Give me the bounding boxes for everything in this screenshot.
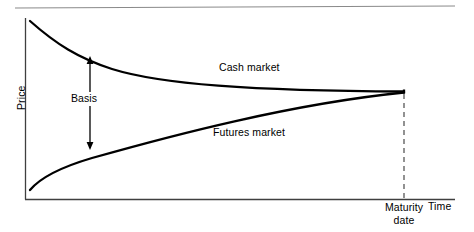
maturity-line1: Maturity [374,201,434,214]
top-rule [15,6,455,8]
y-axis-label: Price [16,78,28,118]
basis-convergence-diagram: Price Cash market Futures market Basis M… [0,0,474,232]
cash-market-curve [30,21,404,92]
diagram-canvas [0,0,474,232]
basis-label: Basis [63,92,105,106]
futures-market-curve [30,93,404,191]
maturity-date-tick-label: Maturity date [374,201,434,227]
cash-market-label: Cash market [219,62,280,74]
maturity-line2: date [374,214,434,227]
x-axis-label: Time [428,201,451,213]
futures-market-label: Futures market [213,127,285,139]
